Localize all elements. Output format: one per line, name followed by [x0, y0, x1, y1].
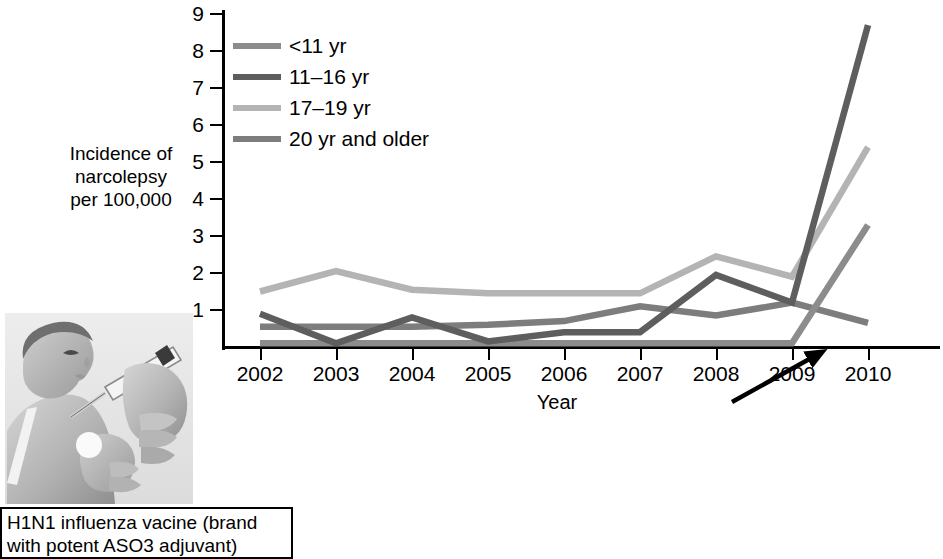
y-tick-label-text: 7 — [180, 77, 204, 98]
x-tick-label-2002: 2002 — [225, 362, 295, 385]
narcolepsy-incidence-figure: Incidence of narcolepsy per 100,000 1234… — [0, 0, 943, 559]
x-tick-2004 — [412, 349, 414, 360]
y-tick-3 — [210, 235, 222, 237]
x-axis-title: Year — [497, 391, 617, 414]
y-tick-label-2: 2 — [180, 262, 204, 283]
x-tick-2010 — [868, 349, 870, 360]
y-tick-label-9: 9 — [180, 3, 204, 24]
y-tick-4 — [210, 198, 222, 200]
y-tick-1 — [210, 309, 222, 311]
legend-item-3[interactable]: 20 yr and older — [233, 123, 429, 154]
x-tick-label-2006: 2006 — [529, 362, 599, 385]
y-tick-label-3: 3 — [180, 225, 204, 246]
y-tick-5 — [210, 161, 222, 163]
series-line--11-yr — [260, 225, 868, 343]
x-tick-2002 — [260, 349, 262, 360]
y-tick-2 — [210, 272, 222, 274]
caption-text: H1N1 influenza vacine (brand with potent… — [7, 511, 286, 557]
x-tick-2007 — [640, 349, 642, 360]
vaccination-photo-illustration — [5, 313, 193, 504]
legend-item-1[interactable]: 11–16 yr — [233, 61, 429, 92]
y-tick-label-text: 9 — [180, 3, 204, 24]
y-tick-label-text: 8 — [180, 40, 204, 61]
y-tick-7 — [210, 87, 222, 89]
x-tick-label-2007: 2007 — [605, 362, 675, 385]
x-tick-2008 — [716, 349, 718, 360]
series-line-20-yr-and-older — [260, 303, 868, 327]
legend-item-label: <11 yr — [289, 35, 346, 56]
legend-item-label: 20 yr and older — [289, 128, 429, 149]
x-tick-label-2003: 2003 — [301, 362, 371, 385]
vaccination-photo — [5, 313, 193, 504]
legend-swatch-icon — [233, 136, 281, 142]
legend-item-2[interactable]: 17–19 yr — [233, 92, 429, 123]
legend-item-0[interactable]: <11 yr — [233, 30, 429, 61]
y-tick-label-8: 8 — [180, 40, 204, 61]
y-tick-label-text: 4 — [180, 188, 204, 209]
x-tick-2005 — [488, 349, 490, 360]
legend: <11 yr11–16 yr17–19 yr20 yr and older — [233, 30, 429, 154]
y-tick-9 — [210, 13, 222, 15]
y-tick-label-text: 3 — [180, 225, 204, 246]
y-tick-label-text: 5 — [180, 151, 204, 172]
y-tick-label-4: 4 — [180, 188, 204, 209]
x-tick-2006 — [564, 349, 566, 360]
x-tick-2003 — [336, 349, 338, 360]
y-tick-6 — [210, 124, 222, 126]
legend-swatch-icon — [233, 43, 281, 49]
legend-swatch-icon — [233, 74, 281, 80]
legend-item-label: 17–19 yr — [289, 97, 371, 118]
legend-swatch-icon — [233, 105, 281, 111]
caption-box: H1N1 influenza vacine (brand with potent… — [0, 507, 293, 559]
x-tick-label-2005: 2005 — [453, 362, 523, 385]
y-tick-label-5: 5 — [180, 151, 204, 172]
legend-item-label: 11–16 yr — [289, 66, 369, 87]
y-tick-label-text: 6 — [180, 114, 204, 135]
y-tick-8 — [210, 50, 222, 52]
y-axis-title: Incidence of narcolepsy per 100,000 — [46, 142, 196, 211]
y-axis-line — [222, 10, 225, 350]
y-tick-label-text: 2 — [180, 262, 204, 283]
y-tick-label-6: 6 — [180, 114, 204, 135]
y-tick-label-7: 7 — [180, 77, 204, 98]
vaccine-introduction-arrow — [720, 330, 850, 415]
series-line-17-19-yr — [260, 147, 868, 293]
x-tick-label-2004: 2004 — [377, 362, 447, 385]
